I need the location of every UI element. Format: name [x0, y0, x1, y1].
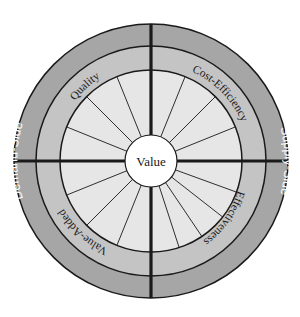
value-wheel-diagram: Value Demand-Side Supply-Side Quality Co…	[0, 0, 300, 317]
center-label: Value	[136, 154, 166, 169]
